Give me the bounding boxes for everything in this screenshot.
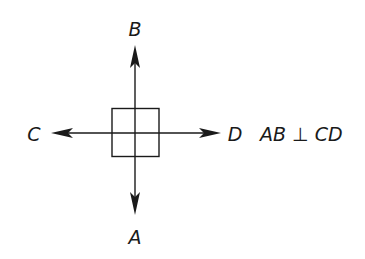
label-a: A [127, 226, 142, 248]
label-c: C [27, 123, 41, 145]
perpendicular-statement: AB ⊥ CD [258, 123, 343, 145]
label-b: B [128, 18, 141, 40]
label-d: D [228, 123, 243, 145]
perpendicular-lines-diagram: B A C D AB ⊥ CD [0, 0, 365, 259]
